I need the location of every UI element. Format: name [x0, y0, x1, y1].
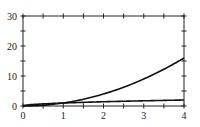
plot-frame [23, 16, 184, 106]
data-series [23, 58, 184, 106]
plot-border [23, 16, 184, 106]
x-tick-label: 3 [141, 110, 146, 121]
y-tick-label: 30 [7, 11, 17, 22]
x-tick-label: 4 [182, 110, 187, 121]
series-line-1 [23, 58, 184, 106]
line-chart: 012340102030 [0, 0, 200, 127]
y-tick-label: 10 [7, 71, 17, 82]
y-tick-label: 20 [7, 41, 17, 52]
y-tick-label: 0 [12, 101, 17, 112]
x-tick-label: 2 [101, 110, 106, 121]
x-tick-label: 0 [21, 110, 26, 121]
x-tick-label: 1 [61, 110, 66, 121]
